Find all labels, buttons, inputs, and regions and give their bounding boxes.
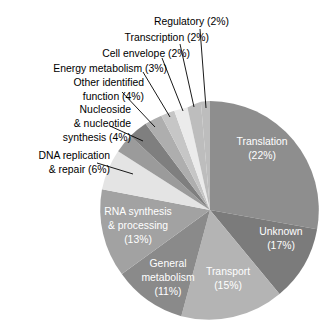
slice-label-unknown-name: Unknown: [259, 226, 303, 237]
label-regulatory: Regulatory (2%): [154, 16, 229, 27]
label-dna-replication-line2: & repair (6%): [49, 164, 110, 175]
slice-label-rna-synthesis-percent: (13%): [124, 234, 152, 245]
label-other-identified-function-line2: function (4%): [83, 91, 144, 102]
slice-label-general-metabolism-line2: metabolism: [141, 272, 194, 283]
label-cell-envelope: Cell envelope (2%): [102, 48, 190, 59]
pie-chart-figure: Regulatory (2%) Transcription (2%) Cell …: [0, 0, 335, 331]
label-nucleoside-synthesis-line3: synthesis (4%): [63, 132, 131, 143]
label-nucleoside-synthesis-line1: Nucleoside: [80, 104, 132, 115]
label-dna-replication-line1: DNA replication: [38, 150, 110, 161]
slice-label-rna-synthesis-line2: & processing: [108, 220, 168, 231]
slice-label-rna-synthesis-line1: RNA synthesis: [104, 206, 172, 217]
label-energy-metabolism: Energy metabolism (3%): [53, 63, 167, 74]
slice-label-transport-percent: (15%): [214, 280, 242, 291]
slice-label-unknown-percent: (17%): [267, 240, 295, 251]
label-nucleoside-synthesis-line2: & nucleotide: [74, 118, 131, 129]
label-other-identified-function-line1: Other identified: [74, 77, 145, 88]
slice-label-general-metabolism-percent: (11%): [155, 286, 182, 297]
pie-slice-translation[interactable]: [210, 101, 319, 229]
leader-line-energy-metabolism: [143, 72, 170, 117]
slice-label-general-metabolism-line1: General: [150, 258, 187, 269]
label-transcription: Transcription (2%): [125, 32, 210, 43]
slice-label-translation-name: Translation: [236, 136, 287, 147]
pie-chart-svg: Regulatory (2%) Transcription (2%) Cell …: [0, 0, 335, 331]
slice-label-transport-name: Transport: [206, 266, 250, 277]
slice-label-translation-percent: (22%): [248, 150, 276, 161]
